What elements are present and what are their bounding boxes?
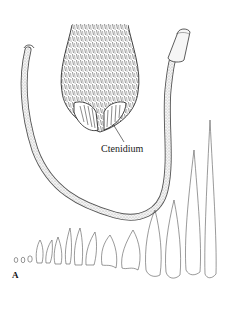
spine-13 — [165, 200, 180, 278]
spine-8 — [74, 228, 82, 265]
spine-4 — [36, 240, 43, 263]
spine-7 — [65, 228, 71, 264]
spine-2 — [21, 257, 25, 263]
spine-11 — [122, 230, 140, 270]
spine-6 — [54, 237, 62, 264]
spine-10 — [101, 235, 116, 268]
spine-3 — [28, 256, 32, 262]
spine-1 — [14, 258, 18, 263]
ctenidium-label: Ctenidium — [101, 143, 143, 154]
spine-9 — [86, 232, 97, 265]
illustration-canvas: Ctenidium A — [0, 0, 234, 323]
ctenidium-leader-line — [113, 124, 124, 142]
scientific-illustration: Ctenidium A — [0, 0, 234, 323]
spine-12 — [145, 210, 161, 276]
spine-14 — [185, 150, 200, 275]
spine-5 — [46, 240, 53, 263]
body-end-capsule — [168, 29, 190, 62]
hairy-head — [61, 24, 139, 132]
panel-label: A — [12, 270, 19, 280]
spine-15 — [205, 120, 216, 278]
